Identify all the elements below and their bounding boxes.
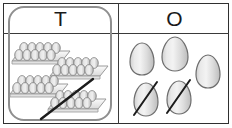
worksheet-image: T O — [0, 0, 232, 128]
egg-crossed-out — [164, 79, 194, 117]
table-column-divider — [118, 3, 119, 124]
tens-column-cell — [4, 34, 117, 123]
egg — [194, 54, 222, 89]
column-header-ones-label: O — [166, 8, 182, 29]
column-header-ones: O — [120, 3, 229, 33]
egg-tray-crossed-out — [46, 87, 108, 117]
egg — [128, 42, 156, 76]
ones-column-cell — [120, 34, 228, 123]
egg-crossed-out — [131, 81, 161, 119]
egg — [160, 36, 190, 72]
